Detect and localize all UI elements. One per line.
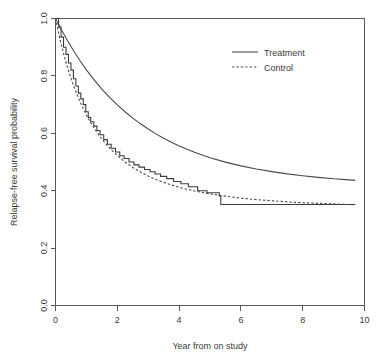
- x-tick-label-2: 4: [177, 315, 182, 325]
- x-tick-label-1: 2: [115, 315, 120, 325]
- y-axis-ticks: [51, 19, 56, 306]
- y-tick-label-3: 0.6: [39, 127, 49, 140]
- legend-label-treatment: Treatment: [264, 48, 305, 58]
- chart-page: 0.0 0.2 0.4 0.6 0.8 1.0 0 2 4 6 8 10 Yea…: [0, 0, 379, 361]
- y-tick-label-4: 0.8: [39, 70, 49, 83]
- y-tick-label-0: 0.0: [39, 299, 49, 312]
- series-treatment-line: [56, 19, 356, 181]
- survival-plot: 0.0 0.2 0.4 0.6 0.8 1.0 0 2 4 6 8 10 Yea…: [0, 0, 379, 361]
- y-axis-tick-labels: 0.0 0.2 0.4 0.6 0.8 1.0: [39, 12, 49, 312]
- y-axis-title: Relapse-free survival probability: [9, 97, 19, 226]
- x-tick-label-5: 10: [359, 315, 369, 325]
- x-tick-label-0: 0: [53, 315, 58, 325]
- x-axis-ticks: [56, 306, 365, 311]
- x-tick-label-4: 8: [300, 315, 305, 325]
- y-tick-label-1: 0.2: [39, 242, 49, 255]
- y-tick-label-5: 1.0: [39, 12, 49, 25]
- x-axis-title: Year from on study: [172, 341, 248, 351]
- legend: Treatment Control: [232, 48, 305, 73]
- y-tick-label-2: 0.4: [39, 184, 49, 197]
- x-tick-label-3: 6: [238, 315, 243, 325]
- legend-label-control: Control: [264, 63, 293, 73]
- x-axis-tick-labels: 0 2 4 6 8 10: [53, 315, 370, 325]
- plot-frame: [56, 19, 365, 306]
